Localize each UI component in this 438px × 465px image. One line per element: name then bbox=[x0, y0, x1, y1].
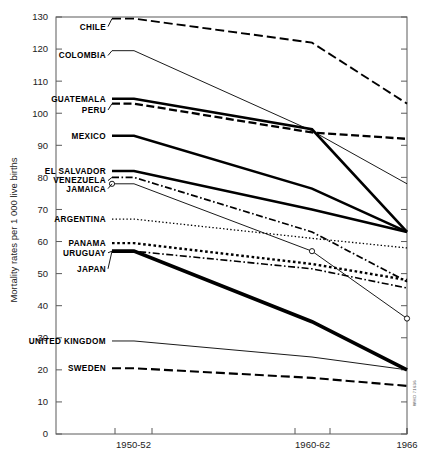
y-tick-label: 90 bbox=[37, 140, 48, 151]
y-tick-label: 10 bbox=[37, 396, 48, 407]
series-label-colombia: COLOMBIA bbox=[59, 51, 106, 60]
data-point-marker bbox=[404, 316, 409, 321]
x-tick-label: 1966 bbox=[396, 439, 417, 450]
series-label-jamaica: JAMAICA bbox=[66, 185, 106, 194]
mortality-rates-chart: 0102030405060708090100110120130 1950-521… bbox=[0, 0, 438, 465]
series-label-chile: CHILE bbox=[80, 23, 107, 32]
y-tick-label: 0 bbox=[43, 428, 48, 439]
series-label-japan: JAPAN bbox=[77, 265, 106, 274]
y-tick-label: 20 bbox=[37, 364, 48, 375]
series-label-mexico: MEXICO bbox=[72, 132, 107, 141]
series-label-uruguay: URUGUAY bbox=[63, 249, 106, 258]
figure-credit: WHO 71636 bbox=[412, 380, 417, 406]
y-tick-label: 70 bbox=[37, 204, 48, 215]
data-point-marker bbox=[309, 249, 314, 254]
x-tick-label: 1960-62 bbox=[295, 439, 330, 450]
series-label-guatemala: GUATEMALA bbox=[51, 95, 106, 104]
chart-canvas: 0102030405060708090100110120130 1950-521… bbox=[0, 0, 438, 465]
series-label-el-salvador: EL SALVADOR bbox=[45, 167, 106, 176]
series-label-united-kingdom: UNITED KINGDOM bbox=[29, 337, 106, 346]
series-label-panama: PANAMA bbox=[69, 239, 106, 248]
y-tick-label: 100 bbox=[32, 108, 48, 119]
series-label-sweden: SWEDEN bbox=[68, 364, 106, 373]
y-tick-label: 120 bbox=[32, 43, 48, 54]
y-tick-label: 40 bbox=[37, 300, 48, 311]
y-tick-label: 60 bbox=[37, 236, 48, 247]
chart-background bbox=[0, 0, 438, 465]
x-tick-label: 1950-52 bbox=[116, 439, 151, 450]
series-label-argentina: ARGENTINA bbox=[54, 215, 106, 224]
y-tick-label: 110 bbox=[33, 76, 48, 87]
y-axis-title: Mortality rates per 1 000 live births bbox=[8, 157, 19, 302]
y-tick-label: 130 bbox=[32, 11, 48, 22]
series-label-peru: PERU bbox=[82, 106, 106, 115]
y-tick-label: 50 bbox=[37, 268, 48, 279]
